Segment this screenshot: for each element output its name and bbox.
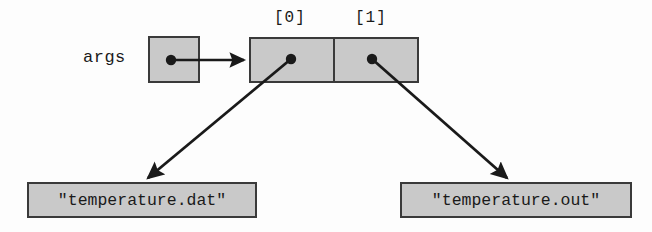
reference-diagram: args [0] [1] "temperature.dat" "temperat… [0,0,652,232]
arrow-cell1-to-string-out [372,59,507,178]
arrow-cell0-to-string-dat [148,59,291,178]
arrow-layer [0,0,652,232]
